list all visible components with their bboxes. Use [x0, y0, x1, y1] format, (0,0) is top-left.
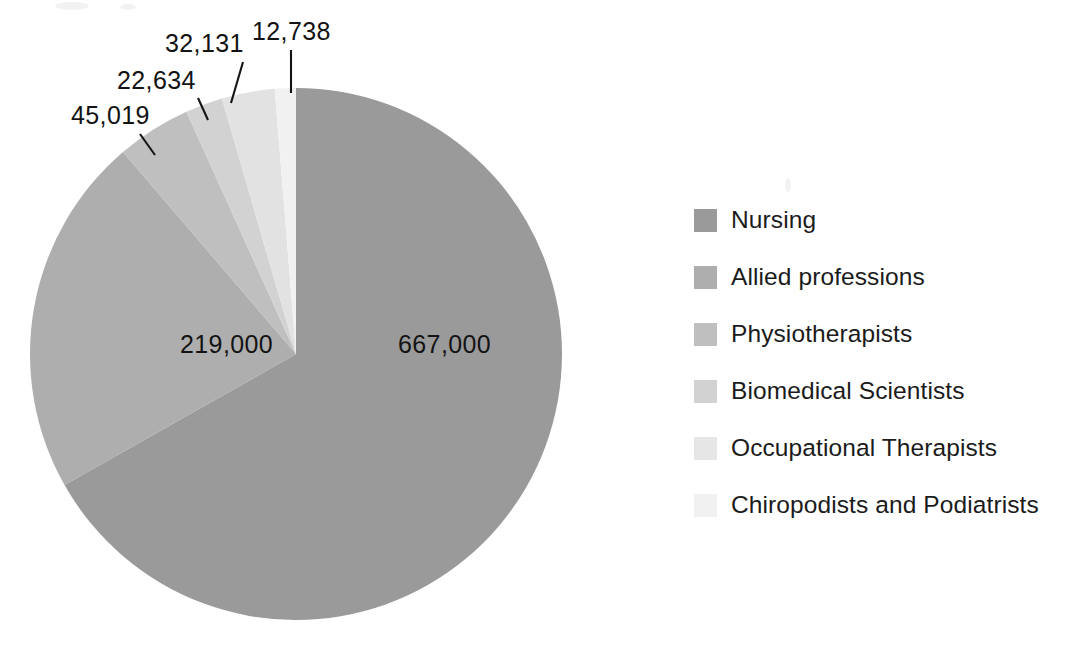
legend-item[interactable]: Occupational Therapists — [694, 420, 1064, 477]
legend-swatch-icon — [694, 494, 717, 517]
slice-callout-label: 12,738 — [252, 17, 331, 45]
legend-item-label: Allied professions — [731, 264, 925, 291]
legend-item-label: Biomedical Scientists — [731, 378, 965, 405]
legend-item-label: Physiotherapists — [731, 321, 912, 348]
legend-swatch-icon — [694, 209, 717, 232]
legend-swatch-icon — [694, 380, 717, 403]
legend-swatch-icon — [694, 266, 717, 289]
legend-item[interactable]: Allied professions — [694, 249, 1064, 306]
legend-item-label: Occupational Therapists — [731, 435, 997, 462]
legend-swatch-icon — [694, 323, 717, 346]
chart-legend: NursingAllied professionsPhysiotherapist… — [694, 192, 1064, 534]
slice-value-label: 667,000 — [398, 330, 491, 358]
slice-value-label: 219,000 — [180, 330, 273, 358]
legend-item[interactable]: Nursing — [694, 192, 1064, 249]
legend-item-label: Nursing — [731, 207, 816, 234]
legend-item[interactable]: Physiotherapists — [694, 306, 1064, 363]
slice-callout-label: 45,019 — [71, 101, 150, 129]
legend-item[interactable]: Chiropodists and Podiatrists — [694, 477, 1064, 534]
legend-swatch-icon — [694, 437, 717, 460]
legend-item[interactable]: Biomedical Scientists — [694, 363, 1064, 420]
slice-callout-label: 32,131 — [165, 29, 244, 57]
slice-callout-label: 22,634 — [117, 66, 196, 94]
legend-item-label: Chiropodists and Podiatrists — [731, 492, 1039, 519]
chart-canvas: 667,000219,00045,01922,63432,13112,738 N… — [0, 0, 1078, 654]
